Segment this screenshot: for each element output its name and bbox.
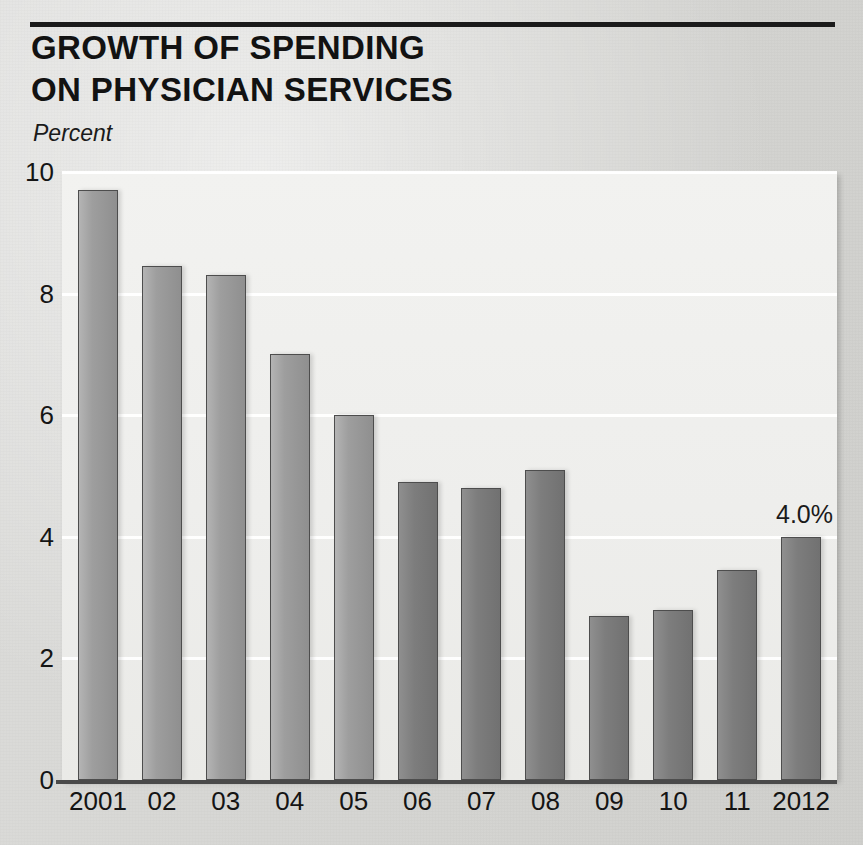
bar-series: 4.0% xyxy=(62,172,837,780)
bar-slot xyxy=(322,172,386,780)
x-axis-tick-label: 2001 xyxy=(66,786,130,817)
y-axis-tick-label: 6 xyxy=(8,400,54,431)
bar-slot xyxy=(577,172,641,780)
bar xyxy=(78,190,118,780)
y-axis-tick-label: 4 xyxy=(8,521,54,552)
bar-slot xyxy=(258,172,322,780)
bar xyxy=(781,537,821,780)
x-axis-tick-label: 10 xyxy=(641,786,705,817)
x-axis-tick-label: 09 xyxy=(577,786,641,817)
bar xyxy=(589,616,629,780)
bar-slot xyxy=(194,172,258,780)
bar xyxy=(270,354,310,780)
x-axis-tick-label: 2012 xyxy=(769,786,833,817)
x-axis-tick-label: 03 xyxy=(194,786,258,817)
bar-slot xyxy=(386,172,450,780)
bar xyxy=(525,470,565,780)
bar-slot xyxy=(513,172,577,780)
y-axis-unit-label: Percent xyxy=(33,120,112,147)
x-axis-tick-label: 06 xyxy=(386,786,450,817)
bar-value-annotation: 4.0% xyxy=(776,500,833,529)
bar xyxy=(142,266,182,780)
bar xyxy=(398,482,438,780)
bar-slot xyxy=(130,172,194,780)
y-axis-tick-label: 10 xyxy=(8,157,54,188)
page-title: GROWTH OF SPENDING ON PHYSICIAN SERVICES xyxy=(31,27,731,110)
x-axis-tick-label: 11 xyxy=(705,786,769,817)
bar xyxy=(206,275,246,780)
bar-slot xyxy=(66,172,130,780)
x-axis-tick-label: 02 xyxy=(130,786,194,817)
bar-slot xyxy=(705,172,769,780)
bar xyxy=(461,488,501,780)
y-axis-tick-label: 0 xyxy=(8,765,54,796)
bar-slot xyxy=(641,172,705,780)
x-axis-baseline xyxy=(56,780,837,784)
x-axis-tick-label: 05 xyxy=(322,786,386,817)
bar xyxy=(717,570,757,780)
x-axis-tick-label: 04 xyxy=(258,786,322,817)
chart-plot-area: 4.0% xyxy=(62,172,837,780)
bar xyxy=(653,610,693,780)
title-line-2: ON PHYSICIAN SERVICES xyxy=(31,69,731,111)
bar xyxy=(334,415,374,780)
y-axis-tick-label: 2 xyxy=(8,643,54,674)
y-axis-tick-label: 8 xyxy=(8,278,54,309)
bar-slot: 4.0% xyxy=(769,172,833,780)
title-line-1: GROWTH OF SPENDING xyxy=(31,29,425,66)
x-axis: 2001020304050607080910112012 xyxy=(62,786,837,817)
x-axis-tick-label: 07 xyxy=(450,786,514,817)
bar-slot xyxy=(450,172,514,780)
y-axis: 0246810 xyxy=(0,172,54,780)
x-axis-tick-label: 08 xyxy=(513,786,577,817)
